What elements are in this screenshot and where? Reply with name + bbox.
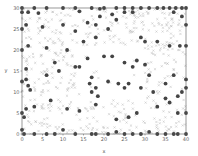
cross-marker [86, 117, 88, 119]
cross-marker [71, 129, 73, 131]
cross-marker [71, 54, 73, 56]
data-point [178, 44, 182, 48]
cross-marker [71, 25, 73, 27]
cross-marker [146, 78, 148, 80]
cross-marker [50, 105, 52, 107]
cross-marker [47, 90, 49, 92]
data-point [94, 23, 98, 27]
data-point [127, 82, 131, 86]
cross-marker [59, 101, 61, 103]
cross-marker [59, 108, 61, 110]
cross-marker [62, 105, 64, 107]
cross-markers [21, 7, 187, 135]
cross-marker [49, 110, 51, 112]
data-point [114, 130, 118, 134]
cross-marker [26, 113, 28, 115]
cross-marker [96, 129, 98, 131]
cross-marker [52, 77, 54, 79]
cross-marker [120, 111, 122, 113]
cross-marker [170, 86, 172, 88]
data-point [78, 65, 82, 69]
cross-marker [92, 117, 94, 119]
data-point [168, 44, 172, 48]
data-point [90, 90, 94, 94]
data-point [127, 115, 131, 119]
cross-marker [112, 99, 114, 101]
cross-marker [51, 66, 53, 68]
cross-marker [170, 126, 172, 128]
cross-marker [45, 19, 47, 21]
cross-marker [113, 126, 115, 128]
data-point [155, 40, 159, 44]
cross-marker [42, 73, 44, 75]
cross-marker [116, 11, 118, 13]
cross-marker [68, 129, 70, 131]
cross-marker [179, 33, 181, 35]
data-point [88, 82, 92, 86]
cross-marker [42, 89, 44, 91]
cross-marker [122, 104, 124, 106]
cross-marker [58, 126, 60, 128]
y-tick-label: 25 [13, 26, 19, 32]
cross-marker [57, 54, 59, 56]
cross-marker [176, 40, 178, 42]
cross-marker [153, 8, 155, 10]
axes [22, 8, 186, 134]
cross-marker [168, 27, 170, 29]
cross-marker [30, 68, 32, 70]
cross-marker [175, 61, 177, 63]
cross-marker [151, 46, 153, 48]
cross-marker [142, 21, 144, 23]
cross-marker [122, 42, 124, 44]
data-point [176, 111, 180, 115]
x-tick-label: 15 [80, 136, 86, 142]
cross-marker [70, 33, 72, 35]
cross-marker [158, 22, 160, 24]
data-point [78, 9, 82, 13]
data-point [110, 54, 114, 58]
cross-marker [181, 25, 183, 27]
data-point [86, 57, 90, 61]
cross-marker [158, 81, 160, 83]
cross-marker [151, 22, 153, 24]
cross-marker [47, 104, 49, 106]
cross-marker [104, 131, 106, 133]
cross-marker [165, 126, 167, 128]
cross-marker [101, 131, 103, 133]
cross-marker [142, 28, 144, 30]
data-point [180, 15, 184, 19]
data-point [131, 10, 135, 14]
data-point [90, 75, 94, 79]
cross-marker [125, 121, 127, 123]
cross-marker [26, 58, 28, 60]
data-point [180, 90, 184, 94]
cross-marker [36, 21, 38, 23]
cross-marker [182, 107, 184, 109]
cross-marker [104, 41, 106, 43]
cross-marker [95, 42, 97, 44]
cross-marker [57, 99, 59, 101]
cross-marker [24, 31, 26, 33]
cross-marker [184, 13, 186, 15]
x-tick-label: 5 [41, 136, 44, 142]
cross-marker [170, 33, 172, 35]
x-tick-label: 35 [162, 136, 168, 142]
cross-marker [26, 60, 28, 62]
cross-marker [170, 25, 172, 27]
data-point [135, 59, 139, 63]
cross-marker [158, 44, 160, 46]
cross-marker [56, 128, 58, 130]
cross-marker [169, 12, 171, 14]
cross-marker [155, 121, 157, 123]
cross-marker [153, 25, 155, 27]
cross-marker [170, 37, 172, 39]
cross-marker [102, 106, 104, 108]
cross-marker [168, 54, 170, 56]
cross-marker [168, 111, 170, 113]
cross-marker [154, 68, 156, 70]
cross-marker [95, 70, 97, 72]
cross-marker [39, 42, 41, 44]
cross-marker [46, 117, 48, 119]
cross-marker [91, 24, 93, 26]
cross-marker [161, 81, 163, 83]
